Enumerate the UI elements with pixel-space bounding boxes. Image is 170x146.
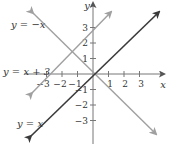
x-tick-label: −3 <box>36 79 50 89</box>
y-tick-label: −2 <box>75 100 88 110</box>
label-y-eq-x: y = x <box>16 118 43 129</box>
plot-area: −3 −2 −1 1 2 3 3 2 1 −1 −2 −3 x y y = −x… <box>0 0 170 146</box>
chart: −3 −2 −1 1 2 3 3 2 1 −1 −2 −3 x y y = −x… <box>0 0 170 146</box>
label-y-eq-neg-x: y = −x <box>10 19 46 30</box>
y-axis-label: y <box>83 0 90 11</box>
y-tick-label: −1 <box>75 85 88 95</box>
x-tick-label: 2 <box>122 79 128 89</box>
y-tick-label: −3 <box>75 116 89 126</box>
x-tick-label: −2 <box>53 79 66 89</box>
label-y-eq-x-plus-3: y = x + 3 <box>2 66 50 77</box>
y-tick-label: 3 <box>82 23 88 33</box>
x-tick-label: 3 <box>138 79 144 89</box>
x-axis-label: x <box>160 79 166 90</box>
